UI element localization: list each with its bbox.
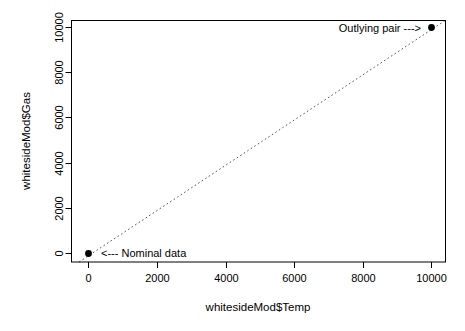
nominal-data-annotation: <--- Nominal data: [101, 247, 187, 259]
x-tick-label-6000: 6000: [282, 272, 306, 284]
x-tick-label-8000: 8000: [351, 272, 375, 284]
y-tick-label-8000: 8000: [53, 60, 65, 84]
plot-canvas: 0 2000 4000 6000 8000 10000 0 2000 4000 …: [0, 0, 465, 331]
y-tick-label-10000: 10000: [53, 12, 65, 43]
y-axis-title: whitesideMod$Gas: [20, 92, 32, 191]
x-tick-label-2000: 2000: [145, 272, 169, 284]
outlying-pair-annotation: Outlying pair --->: [339, 22, 421, 34]
data-point-outlying-pair: [428, 24, 435, 31]
y-tick-label-2000: 2000: [53, 196, 65, 220]
y-tick-label-0: 0: [53, 250, 65, 256]
x-tick-label-0: 0: [85, 272, 91, 284]
y-tick-label-6000: 6000: [53, 105, 65, 129]
data-point-nominal-cluster: [85, 250, 92, 257]
y-tick-label-4000: 4000: [53, 151, 65, 175]
x-axis-title: whitesideMod$Temp: [205, 301, 311, 313]
scatter-plot-figure: 0 2000 4000 6000 8000 10000 0 2000 4000 …: [0, 0, 465, 331]
x-tick-label-10000: 10000: [416, 272, 447, 284]
x-tick-label-4000: 4000: [214, 272, 238, 284]
